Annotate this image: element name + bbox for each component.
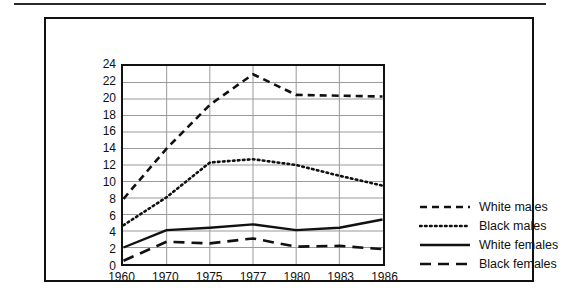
legend-swatch-icon — [419, 201, 471, 213]
legend-label: Black females — [479, 257, 557, 271]
legend-label: White males — [479, 200, 548, 214]
y-axis-tick-label: 18 — [94, 109, 116, 121]
series-line — [123, 159, 382, 225]
series-lines — [123, 66, 383, 264]
y-axis-tick-label: 6 — [94, 210, 116, 222]
x-axis-tick-labels: 1960197019751977198019831986 — [121, 270, 385, 286]
legend-swatch-icon — [419, 258, 471, 270]
legend-item: White males — [419, 197, 563, 216]
legend-swatch-icon — [419, 239, 471, 251]
y-axis-tick-label: 20 — [94, 92, 116, 104]
legend-label: Black males — [479, 219, 546, 233]
plot-area — [121, 64, 385, 266]
x-axis-tick-label: 1975 — [196, 270, 223, 284]
y-axis-tick-label: 16 — [94, 125, 116, 137]
series-line — [123, 74, 382, 199]
y-axis-tick-label: 4 — [94, 226, 116, 238]
y-axis-tick-label: 12 — [94, 159, 116, 171]
x-axis-tick-label: 1986 — [371, 270, 398, 284]
legend-label: White females — [479, 238, 558, 252]
y-axis-tick-label: 22 — [94, 75, 116, 87]
chart-legend: White malesBlack malesWhite femalesBlack… — [419, 197, 563, 273]
y-axis-tick-label: 10 — [94, 176, 116, 188]
x-axis-tick-label: 1960 — [108, 270, 135, 284]
y-axis-tick-labels: 242220181614121086420 — [92, 64, 116, 266]
x-axis-tick-label: 1980 — [283, 270, 310, 284]
legend-item: Black males — [419, 216, 563, 235]
x-axis-tick-label: 1983 — [327, 270, 354, 284]
x-axis-tick-label: 1970 — [152, 270, 179, 284]
legend-swatch-icon — [419, 220, 471, 232]
y-axis-tick-label: 8 — [94, 193, 116, 205]
top-divider-rule — [14, 3, 546, 5]
legend-item: White females — [419, 235, 563, 254]
figure-frame: 242220181614121086420 196019701975197719… — [44, 17, 534, 282]
legend-item: Black females — [419, 254, 563, 273]
y-axis-tick-label: 14 — [94, 142, 116, 154]
y-axis-tick-label: 24 — [94, 58, 116, 70]
x-axis-tick-label: 1977 — [240, 270, 267, 284]
y-axis-tick-label: 2 — [94, 243, 116, 255]
series-line — [123, 238, 382, 260]
